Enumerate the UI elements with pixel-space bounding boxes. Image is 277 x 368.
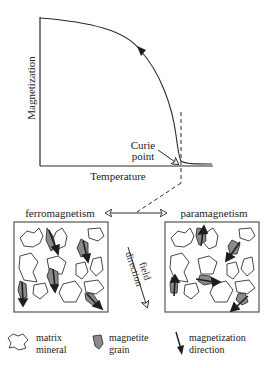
- legend-item-matrix-mineral: matrix mineral: [8, 332, 67, 355]
- paramagnetism-label: paramagnetism: [180, 207, 248, 219]
- legend-matrix-line1: matrix: [36, 332, 62, 343]
- curie-label-line2: point: [132, 150, 155, 162]
- legend-magnetite-line1: magnetite: [109, 332, 149, 343]
- magnetization-curve: [40, 18, 212, 164]
- magnetite-grain-icon: [93, 335, 103, 349]
- state-labels: ferromagnetism paramagnetism: [25, 207, 248, 219]
- magnetization-temperature-graph: Magnetization Temperature Curie point: [25, 17, 213, 212]
- ferromagnetism-panel: [14, 222, 108, 312]
- curie-dashed-connector: [137, 183, 181, 212]
- legend-magnetization-line1: magnetization: [189, 332, 246, 343]
- matrix-mineral-icon: [8, 334, 28, 350]
- curie-point-diagram: Magnetization Temperature Curie point fe…: [0, 0, 277, 368]
- legend-matrix-line2: mineral: [36, 344, 67, 355]
- ferromagnetism-label: ferromagnetism: [25, 207, 95, 219]
- field-direction: field direction: [124, 247, 154, 307]
- magnetization-arrowhead-icon: [177, 345, 184, 355]
- curie-pointer-arrow: [158, 150, 178, 164]
- matrix-minerals: [170, 228, 255, 302]
- curve-direction-arrow-icon: [137, 46, 146, 56]
- matrix-minerals: [19, 228, 104, 302]
- legend: matrix mineral magnetite grain magnetiza…: [8, 332, 246, 355]
- legend-magnetite-line2: grain: [109, 344, 130, 355]
- legend-magnetization-line2: direction: [189, 344, 225, 355]
- legend-item-magnetite-grain: magnetite grain: [93, 332, 149, 355]
- paramagnetism-panel: [165, 222, 259, 312]
- legend-item-magnetization-direction: magnetization direction: [176, 332, 246, 355]
- y-axis-label: Magnetization: [25, 56, 37, 120]
- x-axis-label: Temperature: [90, 170, 146, 182]
